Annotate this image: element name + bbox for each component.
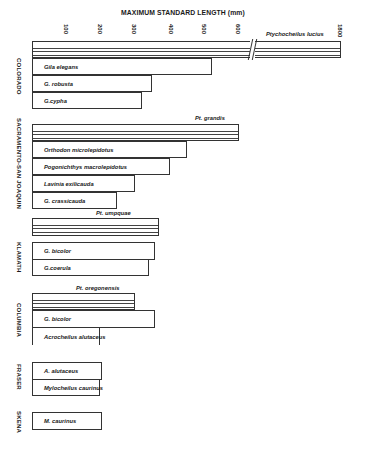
- bar-gila-elegans: Gila elegans: [32, 58, 212, 75]
- x-tick-100: 100: [63, 24, 69, 34]
- bar-label: G. bicolor: [44, 248, 71, 254]
- bar-label: Gila elegans: [44, 64, 78, 70]
- region-label-skena: SKENA: [16, 411, 22, 433]
- bar-label: Acrocheilus alutaceus: [44, 334, 106, 340]
- chart-title: MAXIMUM STANDARD LENGTH (mm): [121, 9, 245, 16]
- region-label-klamath: KLAMATH: [16, 242, 22, 273]
- x-tick-400: 400: [168, 24, 174, 34]
- bar-pogonichthys-macrolepidotus: Pogonichthys macrolepidotus: [32, 158, 170, 175]
- bar-label: Mylocheilus caurinus: [44, 385, 103, 391]
- bar-g-coerula: G.coerula: [32, 259, 149, 276]
- bar-orthodon-microlepidotus: Orthodon microlepidotus: [32, 141, 187, 158]
- bar-label: G. robusta: [44, 81, 73, 87]
- x-tick-600: 600: [235, 24, 241, 34]
- bar-pt-oregonensis: [32, 293, 135, 310]
- bar-label: A. alutaceus: [44, 368, 78, 374]
- bar-g-bicolor-columbia: G. bicolor: [32, 310, 155, 328]
- bar-label: Pogonichthys macrolepidotus: [44, 164, 127, 170]
- bar-label-ptychocheilus-lucius: Ptychocheilus lucius: [266, 31, 324, 37]
- bar-pt-umpquae: [32, 218, 159, 236]
- bar-m-caurinus: M. caurinus: [32, 412, 102, 430]
- bar-g-crassicauda: G. crassicauda: [32, 192, 117, 209]
- bar-label-pt-oregonensis: Pt. oregonensis: [76, 285, 120, 291]
- bar-label-pt-grandis: Pt. grandis: [195, 115, 225, 121]
- bar-label: G. bicolor: [44, 316, 71, 322]
- bar-label: Lavinia exilicauda: [44, 181, 94, 187]
- bar-lavinia-exilicauda: Lavinia exilicauda: [32, 175, 135, 192]
- bar-a-alutaceus: A. alutaceus: [32, 362, 102, 380]
- bar-label: G.cypha: [44, 98, 67, 104]
- bar-mylocheilus-caurinus: Mylocheilus caurinus: [32, 379, 100, 396]
- region-label-fraser: FRASER: [16, 364, 22, 390]
- bar-g-robusta: G. robusta: [32, 75, 152, 92]
- x-tick-1800: 1800: [337, 24, 343, 37]
- bar-pt-grandis: [32, 124, 239, 141]
- bar-acrocheilus-alutaceus: Acrocheilus alutaceus: [32, 327, 100, 345]
- x-tick-500: 500: [201, 24, 207, 34]
- axis-break-marker: [250, 40, 255, 59]
- region-label-colorado: COLORADO: [16, 58, 22, 95]
- bar-label: M. caurinus: [44, 418, 76, 424]
- region-label-sacramento-san-joaquin: SACRAMENTO-SAN JOAQUIN: [16, 118, 22, 209]
- bar-g-bicolor-klamath: G. bicolor: [32, 242, 155, 260]
- x-tick-200: 200: [97, 24, 103, 34]
- bar-label: G. crassicauda: [44, 198, 85, 204]
- x-tick-300: 300: [131, 24, 137, 34]
- bar-label: G.coerula: [44, 265, 71, 271]
- bar-ptychocheilus-lucius: [32, 41, 341, 58]
- bar-g-cypha: G.cypha: [32, 92, 142, 109]
- region-label-columbia: COLUMBIA: [16, 303, 22, 337]
- bar-label-pt-umpquae: Pt. umpquae: [96, 210, 131, 216]
- bar-label: Orthodon microlepidotus: [44, 147, 114, 153]
